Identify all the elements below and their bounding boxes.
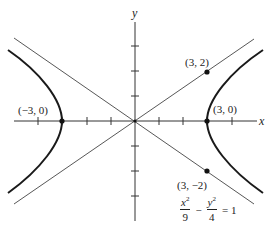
point-lower-asymptote	[204, 168, 209, 173]
x-axis-label: x	[258, 114, 265, 128]
point-left-vertex	[59, 118, 64, 123]
point-right-vertex	[204, 118, 209, 123]
hyperbola-equation: x2 9 − y2 4 = 1	[178, 196, 239, 223]
y-axis-label: y	[131, 6, 138, 20]
hyperbola-diagram: x y (−3, 0) (3, 0) (3, 2) (3, −2) x2 9 −…	[0, 0, 272, 237]
equation-fraction-y: y2 4	[207, 196, 217, 223]
label-lower-asymptote-point: (3, −2)	[177, 179, 207, 192]
label-upper-asymptote-point: (3, 2)	[185, 56, 209, 69]
origin-point	[133, 119, 136, 122]
equation-equals: = 1	[222, 204, 236, 216]
equation-fraction-x: x2 9	[180, 196, 190, 223]
point-upper-asymptote	[204, 69, 209, 74]
label-right-vertex: (3, 0)	[213, 103, 237, 116]
label-left-vertex: (−3, 0)	[18, 104, 48, 117]
equation-minus: −	[195, 204, 201, 216]
